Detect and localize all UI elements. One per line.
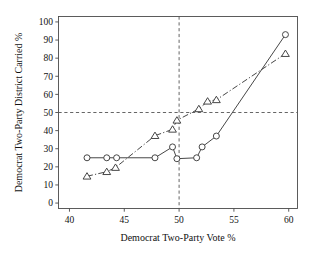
y-tick-label: 30 — [44, 144, 54, 154]
data-point-circle — [194, 155, 200, 161]
x-tick-label: 50 — [174, 215, 184, 225]
x-axis-title: Democrat Two-Party Vote % — [120, 232, 235, 243]
data-point-triangle — [195, 105, 203, 111]
y-tick-label: 40 — [44, 126, 54, 136]
data-point-circle — [282, 32, 288, 38]
data-point-triangle — [173, 117, 181, 123]
data-point-triangle — [169, 126, 177, 132]
x-tick-label: 60 — [284, 215, 294, 225]
data-point-triangle — [112, 164, 120, 170]
data-point-circle — [170, 144, 176, 150]
chart-plot-svg: 01020304050607080901004045505560Democrat… — [0, 0, 320, 258]
x-tick-label: 55 — [229, 215, 239, 225]
y-tick-label: 0 — [48, 198, 53, 208]
data-point-circle — [199, 144, 205, 150]
data-point-circle — [84, 155, 90, 161]
y-tick-label: 70 — [44, 72, 54, 82]
data-point-circle — [152, 155, 158, 161]
data-point-triangle — [151, 132, 159, 138]
y-tick-label: 50 — [44, 108, 54, 118]
series-circle — [84, 32, 288, 162]
y-axis-title: Democrat Two-Party District Carried % — [13, 33, 24, 193]
chart-figure: 01020304050607080901004045505560Democrat… — [0, 0, 320, 258]
x-tick-label: 45 — [120, 215, 130, 225]
x-tick-label: 40 — [65, 215, 75, 225]
series-path-circle — [87, 35, 285, 159]
data-point-circle — [174, 156, 180, 162]
data-point-circle — [104, 155, 110, 161]
y-tick-label: 90 — [44, 35, 54, 45]
data-point-triangle — [212, 96, 220, 102]
y-tick-label: 20 — [44, 162, 54, 172]
data-point-triangle — [103, 168, 111, 174]
data-point-circle — [114, 155, 120, 161]
data-point-triangle — [282, 50, 290, 56]
y-tick-label: 60 — [44, 90, 54, 100]
y-tick-label: 80 — [44, 53, 54, 63]
y-tick-label: 10 — [44, 180, 54, 190]
data-point-circle — [213, 133, 219, 139]
y-tick-label: 100 — [39, 17, 54, 27]
